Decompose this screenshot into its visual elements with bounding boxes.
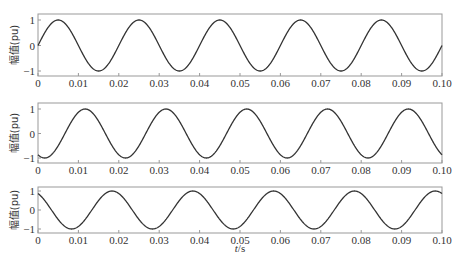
x-tick-label: 0.03 <box>150 234 170 246</box>
x-tick-label: 0.10 <box>432 234 452 246</box>
y-tick-label: −1 <box>23 65 35 77</box>
x-tick-label: 0.02 <box>109 164 128 176</box>
x-tick-label: 0.04 <box>190 164 210 176</box>
x-tick-label: 0.05 <box>230 77 250 89</box>
x-tick-label: 0.06 <box>271 77 291 89</box>
x-tick-label: 0.03 <box>150 77 170 89</box>
x-tick-label: 0.07 <box>311 234 331 246</box>
x-tick-label: 0.07 <box>311 164 331 176</box>
x-tick-label: 0 <box>35 77 41 89</box>
x-tick-label: 0.02 <box>109 77 128 89</box>
x-tick-label: 0.01 <box>69 164 88 176</box>
x-tick-label: 0.09 <box>392 77 412 89</box>
y-axis-label: 幅值(pu) <box>8 25 20 66</box>
waveform-line-1 <box>38 20 442 71</box>
waveform-line-3 <box>38 191 442 229</box>
three-phase-waveform-chart: 00.010.020.030.040.050.060.070.080.090.1… <box>0 0 459 266</box>
y-tick-label: 0 <box>30 128 36 140</box>
y-tick-label: −1 <box>23 152 35 164</box>
x-tick-label: 0.10 <box>432 77 452 89</box>
y-axis-label: 幅值(pu) <box>8 190 20 231</box>
x-tick-label: 0.01 <box>69 77 88 89</box>
x-tick-label: 0 <box>35 234 41 246</box>
y-tick-label: 0 <box>30 40 36 52</box>
x-tick-label: 0 <box>35 164 41 176</box>
x-tick-label: 0.02 <box>109 234 128 246</box>
x-tick-label: 0.09 <box>392 164 412 176</box>
x-tick-label: 0.01 <box>69 234 88 246</box>
x-tick-label: 0.08 <box>352 234 372 246</box>
y-tick-label: 0 <box>30 204 36 216</box>
x-tick-label: 0.09 <box>392 234 412 246</box>
x-tick-label: 0.05 <box>230 164 250 176</box>
x-tick-label: 0.04 <box>190 234 210 246</box>
x-tick-label: 0.06 <box>271 164 291 176</box>
x-tick-label: 0.08 <box>352 164 372 176</box>
x-tick-label: 0.06 <box>271 234 291 246</box>
y-tick-label: 1 <box>30 185 36 197</box>
waveform-line-2 <box>38 109 442 158</box>
y-axis-label: 幅值(pu) <box>8 113 20 154</box>
y-tick-label: −1 <box>23 223 35 235</box>
x-tick-label: 0.03 <box>150 164 170 176</box>
x-tick-label: 0.04 <box>190 77 210 89</box>
x-tick-label: 0.08 <box>352 77 372 89</box>
y-tick-label: 1 <box>30 103 36 115</box>
y-tick-label: 1 <box>30 14 36 26</box>
x-tick-label: 0.07 <box>311 77 331 89</box>
x-tick-label: 0.10 <box>432 164 452 176</box>
x-axis-label: t/s <box>235 242 245 254</box>
